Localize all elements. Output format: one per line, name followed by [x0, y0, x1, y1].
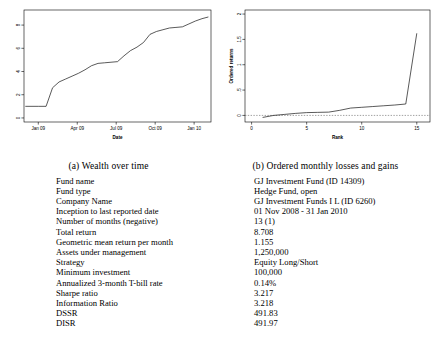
figure-b-plot-area: 0510150.511.52RankOrdered returns	[217, 0, 434, 152]
table-row-value: Equity Long/Short	[254, 258, 435, 268]
fund-details-table-block: Fund nameGJ Investment Fund (ID 14309)Fu…	[0, 176, 435, 329]
table-row-value: 491.97	[254, 319, 435, 329]
x-tick-label: Apr 09	[70, 126, 84, 131]
table-row: StrategyEquity Long/Short	[56, 258, 435, 268]
y-axis-title: Ordered returns	[229, 48, 234, 83]
table-row: DISR491.97	[56, 319, 435, 329]
table-row: DSSR491.83	[56, 309, 435, 319]
table-row: Company NameGJ Investment Funds I L (ID …	[56, 196, 435, 206]
table-row-label: Assets under management	[56, 247, 254, 257]
table-row: Information Ratio3.218	[56, 298, 435, 308]
table-row-value: 1,250,000	[254, 247, 435, 257]
table-row-label: DISR	[56, 319, 254, 329]
table-row-label: Information Ratio	[56, 298, 254, 308]
x-tick-label: Jan 10	[187, 126, 201, 131]
table-row: Annualized 3-month T-bill rate0.14%	[56, 278, 435, 288]
figure-a-caption: (a) Wealth over time	[0, 161, 217, 171]
y-tick-label: 2	[237, 12, 242, 15]
x-tick-label: Jul 09	[110, 126, 123, 131]
figure-page: Jan 09Apr 09Jul 09Oct 09Jan 1002468Date …	[0, 0, 435, 348]
table-row-value: 1.155	[254, 237, 435, 247]
figure-a-wealth-over-time: Jan 09Apr 09Jul 09Oct 09Jan 1002468Date …	[0, 0, 217, 172]
x-tick-label: 0	[250, 126, 253, 131]
y-tick-label: 6	[16, 47, 21, 50]
table-row: Assets under management1,250,000	[56, 247, 435, 257]
wealth-over-time-chart: Jan 09Apr 09Jul 09Oct 09Jan 1002468Date	[0, 0, 217, 152]
y-tick-label: 1.5	[237, 36, 242, 43]
table-row-label: Fund name	[56, 176, 254, 186]
table-row-label: Total return	[56, 227, 254, 237]
y-tick-label: 0	[237, 114, 242, 117]
x-tick-label: Oct 09	[148, 126, 162, 131]
table-row-label: Strategy	[56, 258, 254, 268]
y-tick-label: .5	[237, 88, 242, 92]
y-tick-label: 0	[16, 116, 21, 119]
table-row-value: 8.708	[254, 227, 435, 237]
fund-details-table-body: Fund nameGJ Investment Fund (ID 14309)Fu…	[56, 176, 435, 329]
x-tick-label: 15	[414, 126, 420, 131]
table-row-label: Company Name	[56, 196, 254, 206]
x-axis-title: Date	[113, 135, 123, 140]
table-row-value: 3.217	[254, 288, 435, 298]
figures-row: Jan 09Apr 09Jul 09Oct 09Jan 1002468Date …	[0, 0, 435, 172]
table-row-label: Annualized 3-month T-bill rate	[56, 278, 254, 288]
figure-a-plot-area: Jan 09Apr 09Jul 09Oct 09Jan 1002468Date	[0, 0, 217, 152]
table-row: Geometric mean return per month1.155	[56, 237, 435, 247]
table-row-value: GJ Investment Fund (ID 14309)	[254, 176, 435, 186]
table-row-label: Sharpe ratio	[56, 288, 254, 298]
table-row-value: 100,000	[254, 268, 435, 278]
table-row-label: Minimum investment	[56, 268, 254, 278]
figure-b-caption: (b) Ordered monthly losses and gains	[217, 161, 434, 171]
data-series-line	[25, 17, 208, 106]
table-row-value: 0.14%	[254, 278, 435, 288]
table-row-value: 491.83	[254, 309, 435, 319]
table-row-label: Fund type	[56, 186, 254, 196]
x-axis-title: Rank	[332, 135, 344, 140]
table-row: Fund nameGJ Investment Fund (ID 14309)	[56, 176, 435, 186]
table-row-value: GJ Investment Funds I L (ID 6260)	[254, 196, 435, 206]
table-row: Inception to last reported date01 Nov 20…	[56, 207, 435, 217]
x-tick-label: Jan 09	[31, 126, 45, 131]
y-tick-label: 4	[16, 70, 21, 73]
y-tick-label: 2	[16, 93, 21, 96]
table-row: Minimum investment100,000	[56, 268, 435, 278]
table-row: Fund typeHedge Fund, open	[56, 186, 435, 196]
figure-b-ordered-returns: 0510150.511.52RankOrdered returns (b) Or…	[217, 0, 434, 172]
table-row-value: Hedge Fund, open	[254, 186, 435, 196]
table-row: Number of months (negative)13 (1)	[56, 217, 435, 227]
table-row-label: Inception to last reported date	[56, 207, 254, 217]
table-row: Sharpe ratio3.217	[56, 288, 435, 298]
table-row-value: 3.218	[254, 298, 435, 308]
table-row-value: 01 Nov 2008 - 31 Jan 2010	[254, 207, 435, 217]
y-tick-label: 8	[16, 23, 21, 26]
table-row: Total return8.708	[56, 227, 435, 237]
data-series-line	[263, 33, 417, 117]
ordered-monthly-losses-gains-chart: 0510150.511.52RankOrdered returns	[217, 0, 434, 152]
table-row-label: Geometric mean return per month	[56, 237, 254, 247]
table-row-label: DSSR	[56, 309, 254, 319]
plot-frame	[245, 10, 430, 122]
y-tick-label: 1	[237, 63, 242, 66]
table-row-label: Number of months (negative)	[56, 217, 254, 227]
x-tick-label: 5	[305, 126, 308, 131]
x-tick-label: 10	[359, 126, 365, 131]
fund-details-table: Fund nameGJ Investment Fund (ID 14309)Fu…	[56, 176, 435, 329]
table-row-value: 13 (1)	[254, 217, 435, 227]
